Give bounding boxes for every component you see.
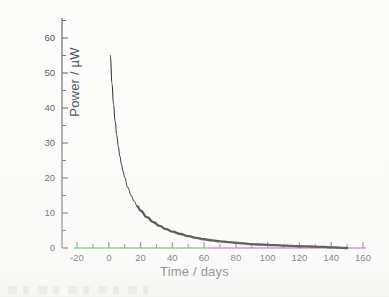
x-axis-title: Time / days [0, 264, 389, 279]
svg-text:0: 0 [106, 252, 111, 263]
figure-page: 0102030405060 -20020406080100120140160 P… [0, 0, 389, 297]
svg-text:20: 20 [44, 172, 55, 183]
svg-text:10: 10 [44, 207, 55, 218]
svg-text:-20: -20 [70, 252, 84, 263]
svg-text:60: 60 [44, 32, 55, 43]
power-decay-curve [110, 56, 347, 249]
power-decay-data-markers [137, 206, 347, 248]
svg-text:40: 40 [167, 252, 178, 263]
power-decay-chart: 0102030405060 -20020406080100120140160 [0, 0, 389, 297]
x-axis-tick-labels: -20020406080100120140160 [70, 252, 371, 263]
svg-text:0: 0 [50, 242, 55, 253]
cropped-caption-text [8, 286, 148, 294]
svg-text:60: 60 [199, 252, 210, 263]
y-axis-tick-labels: 0102030405060 [44, 32, 55, 253]
svg-text:120: 120 [292, 252, 308, 263]
y-axis-title-text: Power / µW [67, 27, 82, 137]
svg-text:20: 20 [135, 252, 146, 263]
svg-text:160: 160 [355, 252, 371, 263]
svg-text:140: 140 [323, 252, 339, 263]
svg-text:50: 50 [44, 67, 55, 78]
svg-text:30: 30 [44, 137, 55, 148]
svg-text:40: 40 [44, 102, 55, 113]
svg-text:80: 80 [231, 252, 242, 263]
svg-text:100: 100 [260, 252, 276, 263]
